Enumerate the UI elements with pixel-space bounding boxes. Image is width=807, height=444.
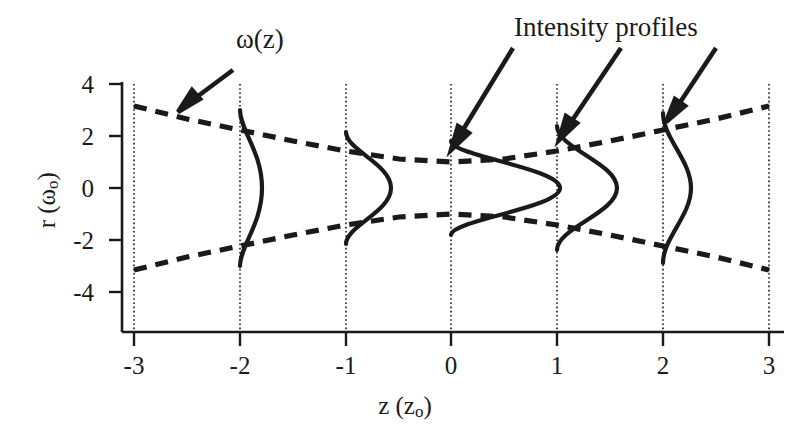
- x-axis-title-sub: o: [415, 402, 424, 421]
- x-ticklabel-1: 1: [534, 352, 580, 380]
- intensity-profile-zm1: [346, 132, 391, 244]
- x-ticklabel-minus-1: -1: [323, 352, 369, 380]
- omega-of-z-label: ω(z): [236, 26, 284, 53]
- x-ticklabel-minus-3: -3: [111, 352, 157, 380]
- intensity-profile-z1: [557, 126, 617, 250]
- y-axis-title-sub: o: [43, 180, 62, 189]
- arrow-omega-z: [178, 70, 233, 112]
- x-ticklabel-minus-2: -2: [217, 352, 263, 380]
- y-axis-title-close: ): [33, 172, 60, 180]
- x-ticklabel-0: 0: [428, 352, 474, 380]
- y-axis-title: r (ωo): [33, 130, 63, 270]
- x-ticks: [134, 332, 769, 346]
- arrow-intensity-2: [559, 48, 621, 140]
- gaussian-beam-figure: ω(z) Intensity profiles 4 2 0 -2 -4 -3 -…: [0, 0, 807, 444]
- arrow-intensity-1: [451, 48, 513, 150]
- arrow-intensity-3: [666, 48, 716, 122]
- y-axis-title-main: r (ω: [33, 189, 60, 228]
- gridlines: [134, 84, 769, 332]
- intensity-profile-z2: [663, 113, 691, 263]
- x-axis-title-main: z (z: [378, 392, 415, 419]
- x-axis-title: z (zo): [378, 392, 432, 422]
- intensity-profile-z0: [451, 141, 560, 235]
- y-ticks: [109, 84, 122, 292]
- y-ticklabel-minus-4: -4: [48, 279, 94, 307]
- y-ticklabel-4: 4: [48, 71, 94, 99]
- x-ticklabel-3: 3: [746, 352, 792, 380]
- intensity-profiles-label: Intensity profiles: [514, 14, 698, 41]
- x-axis-title-close: ): [423, 392, 431, 419]
- x-ticklabel-2: 2: [640, 352, 686, 380]
